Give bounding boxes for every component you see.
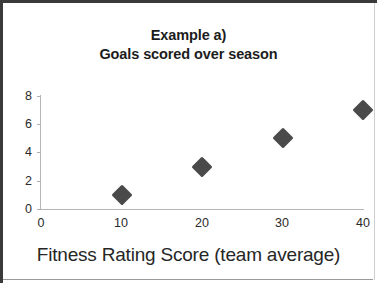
x-tick-label-0: 0 <box>21 216 61 230</box>
data-point-0 <box>111 184 132 205</box>
x-tick-label-10: 10 <box>101 216 141 230</box>
y-tick-label-8: 8 <box>6 89 32 103</box>
data-point-2 <box>272 128 293 149</box>
y-tick-mark-6 <box>37 124 41 125</box>
x-tick-label-20: 20 <box>182 216 222 230</box>
y-tick-label-0: 0 <box>6 202 32 216</box>
y-tick-label-2: 2 <box>6 174 32 188</box>
y-tick-mark-8 <box>37 96 41 97</box>
y-tick-label-4: 4 <box>6 145 32 159</box>
data-point-3 <box>352 100 373 121</box>
x-tick-label-40: 40 <box>343 216 377 230</box>
data-point-1 <box>191 156 212 177</box>
y-tick-mark-0 <box>37 209 41 210</box>
y-tick-label-6: 6 <box>6 117 32 131</box>
figure-frame: Example a) Goals scored over season 0 2 … <box>0 0 377 286</box>
x-axis-title: Fitness Rating Score (team average) <box>0 244 377 266</box>
y-tick-mark-2 <box>37 181 41 182</box>
y-tick-mark-4 <box>37 152 41 153</box>
x-tick-label-30: 30 <box>262 216 302 230</box>
x-axis-line <box>40 209 364 210</box>
